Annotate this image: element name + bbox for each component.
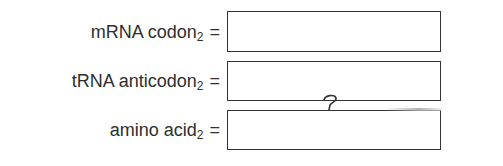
amino-acid-label-text: amino acid (110, 120, 197, 140)
trna-anticodon-label: tRNA anticodon2= (72, 71, 220, 91)
equals-sign: = (209, 120, 220, 140)
mrna-codon-subscript: 2 (197, 30, 204, 44)
amino-acid-label: amino acid2= (110, 120, 220, 140)
mrna-codon-label: mRNA codon2= (91, 22, 220, 42)
equals-sign: = (209, 71, 220, 91)
amino-acid-subscript: 2 (197, 128, 204, 142)
equals-sign: = (209, 22, 220, 42)
mrna-codon-answer-box[interactable] (227, 11, 441, 52)
trna-anticodon-answer-box[interactable] (227, 61, 441, 101)
mrna-codon-label-text: mRNA codon (91, 22, 197, 42)
amino-acid-answer-box[interactable] (227, 110, 441, 150)
trna-anticodon-label-text: tRNA anticodon (72, 71, 197, 91)
trna-anticodon-subscript: 2 (197, 79, 204, 93)
